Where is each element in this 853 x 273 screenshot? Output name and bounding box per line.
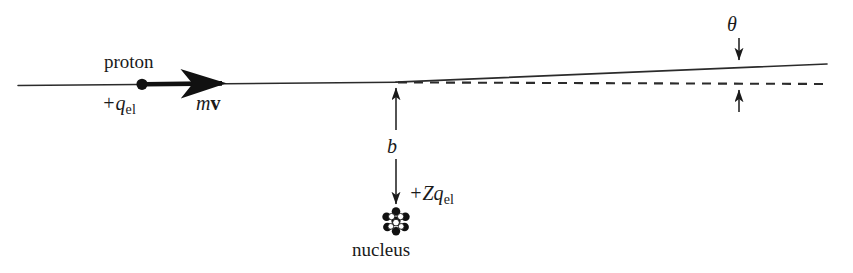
proton-charge-subscript: el	[126, 102, 137, 117]
proton-charge-symbol: +q	[102, 92, 126, 114]
diagram-canvas	[0, 0, 853, 273]
scattering-angle-label: θ	[727, 14, 737, 34]
proton-charge-label: +qel	[102, 93, 136, 117]
momentum-mass-symbol: m	[196, 92, 210, 114]
undeflected-reference-dashed-line	[398, 82, 830, 84]
momentum-label: mv	[196, 93, 220, 113]
proton-label: proton	[104, 52, 154, 71]
nucleus-cluster-icon	[382, 207, 409, 235]
nucleus-charge-symbol: +Zq	[409, 182, 444, 204]
deflected-trajectory-line	[396, 64, 827, 82]
nucleus-label: nucleus	[352, 240, 410, 259]
velocity-vector-symbol: v	[210, 92, 220, 114]
nucleus-charge-subscript: el	[444, 192, 455, 207]
nucleus-charge-label: +Zqel	[409, 183, 454, 207]
velocity-vector-arrow	[145, 83, 222, 84]
impact-parameter-label: b	[387, 136, 397, 156]
scattering-diagram: proton +qel mv b +Zqel nucleus θ	[0, 0, 853, 273]
